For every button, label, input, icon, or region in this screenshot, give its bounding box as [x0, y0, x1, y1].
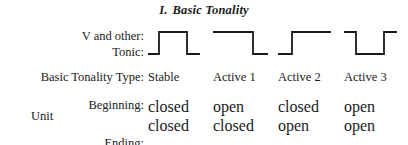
unit-ending-row: Ending: closed closed open open: [0, 117, 408, 136]
type-value-active-3: Active 3: [344, 70, 387, 85]
type-value-active-2: Active 2: [278, 70, 321, 85]
waveform-cell-active-2: [278, 28, 334, 68]
waveform-active-2-icon: [278, 28, 334, 62]
waveform-active-1-icon: [213, 28, 271, 62]
beginning-value-active-3: open: [344, 98, 375, 116]
figure-numeral: I.: [159, 3, 167, 17]
type-value-stable: Stable: [148, 70, 179, 85]
unit-ending-label: Ending:: [72, 136, 144, 145]
waveform-band: V and other: Tonic:: [0, 28, 408, 68]
waveform-cell-active-1: [213, 28, 271, 68]
beginning-value-stable: closed: [148, 98, 189, 116]
waveform-cell-stable: [148, 28, 204, 68]
waveform-stable-icon: [148, 28, 204, 62]
figure-title-text: Basic Tonality: [173, 3, 249, 17]
type-value-active-1: Active 1: [213, 70, 256, 85]
ending-value-active-2: open: [278, 117, 309, 135]
waveform-cell-active-3: [344, 28, 400, 68]
waveform-active-3-icon: [344, 28, 400, 62]
basic-tonality-figure: I.Basic Tonality V and other: Tonic:: [0, 0, 408, 145]
ending-value-active-1: closed: [213, 117, 254, 135]
basic-tonality-type-row: Basic Tonality Type: Stable Active 1 Act…: [0, 70, 408, 90]
beginning-value-active-2: closed: [278, 98, 319, 116]
waveform-row-labels: V and other: Tonic:: [0, 28, 144, 60]
figure-title: I.Basic Tonality: [0, 3, 408, 18]
waveform-label-v-and-other: V and other:: [0, 28, 144, 44]
basic-tonality-type-label: Basic Tonality Type:: [0, 70, 144, 85]
ending-value-stable: closed: [148, 117, 189, 135]
beginning-value-active-1: open: [213, 98, 244, 116]
waveform-label-tonic: Tonic:: [0, 44, 144, 60]
unit-beginning-row: Beginning: closed open closed open: [0, 98, 408, 117]
unit-beginning-label: Beginning:: [72, 98, 144, 113]
unit-block: Unit Beginning: closed open closed open …: [0, 98, 408, 142]
ending-value-active-3: open: [344, 117, 375, 135]
